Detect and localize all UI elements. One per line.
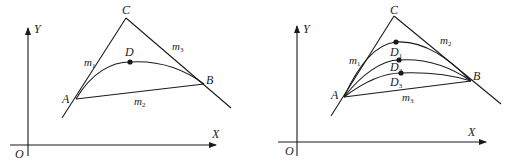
right-label-m1: m1 bbox=[349, 54, 361, 68]
right-label-d2: D2 bbox=[389, 60, 403, 75]
right-label-o: O bbox=[285, 144, 294, 158]
right-label-c: C bbox=[390, 3, 399, 17]
left-label-x: X bbox=[211, 127, 220, 141]
right-point-d1 bbox=[393, 39, 398, 44]
right-label-a: A bbox=[330, 88, 339, 102]
left-point-d bbox=[127, 59, 132, 64]
left-label-m1: m1 bbox=[84, 56, 96, 70]
left-label-c: C bbox=[122, 3, 131, 17]
right-label-m2: m2 bbox=[440, 34, 452, 48]
right-label-x: X bbox=[467, 125, 476, 139]
right-label-m3: m3 bbox=[402, 91, 414, 105]
right-label-b: B bbox=[473, 69, 481, 83]
left-figure bbox=[10, 18, 231, 156]
diagram-canvas: C Y D A B X O m1 m3 m2 C Y A B X O D1 D2… bbox=[0, 0, 508, 167]
left-label-a: A bbox=[61, 92, 70, 106]
left-label-b: B bbox=[206, 73, 214, 87]
left-label-m2: m2 bbox=[134, 95, 146, 109]
diagram-svg: C Y D A B X O m1 m3 m2 C Y A B X O D1 D2… bbox=[0, 0, 508, 167]
left-label-d: D bbox=[124, 45, 134, 59]
right-line-m1 bbox=[331, 16, 394, 116]
left-label-o: O bbox=[15, 147, 24, 161]
left-label-m3: m3 bbox=[172, 40, 184, 54]
right-label-d3: D3 bbox=[389, 75, 403, 90]
left-label-y: Y bbox=[34, 22, 42, 36]
right-label-d1: D1 bbox=[389, 45, 403, 60]
right-label-y: Y bbox=[303, 22, 311, 36]
